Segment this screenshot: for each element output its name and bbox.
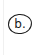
panel-divider-line [3,0,4,55]
panel-label: b. [8,14,32,34]
figure-panel: b. [0,0,36,55]
